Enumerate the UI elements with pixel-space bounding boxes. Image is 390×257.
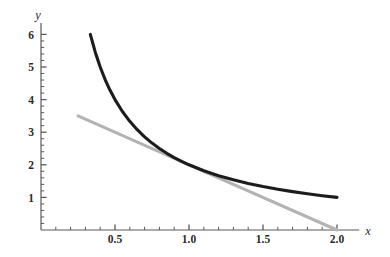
y-axis-tick-label: 5 [28, 61, 34, 73]
series-curve [90, 34, 337, 197]
x-axis-tick-label: 0.5 [108, 233, 123, 245]
x-axis-label: x [364, 224, 371, 238]
y-axis-label: y [33, 8, 41, 22]
y-axis-tick-label: 1 [28, 192, 34, 204]
y-axis-tick-label: 3 [28, 126, 34, 138]
y-axis-tick-label: 6 [28, 29, 34, 41]
plot-canvas: 0.51.01.52.0123456xy [0, 0, 390, 257]
plot-figure: 0.51.01.52.0123456xy [0, 0, 390, 257]
x-axis-tick-label: 2.0 [330, 233, 345, 245]
x-axis-tick-label: 1.5 [256, 233, 271, 245]
x-axis-tick-label: 1.0 [182, 233, 197, 245]
y-axis-tick-label: 2 [28, 159, 34, 171]
y-axis-tick-label: 4 [28, 94, 34, 106]
